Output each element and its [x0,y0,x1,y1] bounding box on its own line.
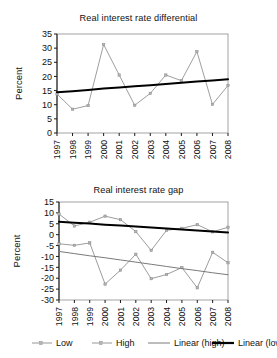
series-marker [196,50,198,52]
series-marker [165,74,167,76]
series-marker [135,230,137,232]
x-tick-label: 2004 [162,307,172,326]
y-tick-label: 35 [42,29,52,39]
x-tick-label: 1999 [83,140,93,159]
series-marker [211,103,213,105]
y-tick-label: -5 [46,241,54,251]
series-marker [227,262,229,264]
y-tick-label: 30 [42,43,52,53]
y-tick-label: 25 [42,57,52,67]
series-marker [134,104,136,106]
x-tick-label: 2003 [146,307,156,326]
y-axis-title: Percent [11,234,22,267]
x-tick-label: 2008 [223,307,233,326]
x-tick-label: 1998 [68,140,78,159]
series-line-low [59,243,228,288]
x-tick-label: 2005 [177,307,187,326]
y-tick-label: 0 [49,230,54,240]
x-tick-label: 2006 [193,307,203,326]
series-marker [150,249,152,251]
series-marker [73,244,75,246]
series-marker [104,283,106,285]
figure-two-line-charts: Real interest rate differential 05101520… [0,0,277,358]
series-marker [73,225,75,227]
x-tick-label: 2001 [114,140,124,159]
x-tick-label: 2002 [131,307,141,326]
legend-item[interactable]: High [92,338,135,348]
legend-swatch-marker [100,342,103,345]
x-tick-label: 1999 [85,307,95,326]
series-marker [149,92,151,94]
series-marker [211,251,213,253]
series-marker [119,269,121,271]
y-tick-label: -30 [41,295,54,305]
x-tick-label: 2002 [130,140,140,159]
series-marker [58,213,60,215]
series-marker [89,242,91,244]
x-tick-label: 2004 [161,140,171,159]
y-tick-label: 0 [47,128,52,138]
legend-label: High [116,338,135,348]
legend-item[interactable]: Low [32,338,73,348]
y-tick-label: 15 [44,197,54,207]
series-marker [87,104,89,106]
y-tick-label: -10 [41,252,54,262]
legend-svg: LowHighLinear (high)Linear (low) [0,332,277,354]
y-tick-label: 5 [49,219,54,229]
x-tick-label: 2008 [223,140,233,159]
chart-legend: LowHighLinear (high)Linear (low) [0,332,277,354]
series-marker [71,108,73,110]
y-tick-label: -15 [41,263,54,273]
series-marker [104,215,106,217]
series-marker [196,223,198,225]
y-tick-label: 5 [47,114,52,124]
legend-label: Low [56,338,73,348]
x-tick-label: 2007 [208,140,218,159]
x-tick-label: 2003 [146,140,156,159]
y-axis-title: Percent [13,67,24,100]
chart-svg-top: 0510152025303519971998199920002001200220… [0,0,277,182]
x-tick-label: 2007 [208,307,218,326]
chart-svg-bottom: -30-25-20-15-10-505101519971998199920002… [0,182,277,330]
series-marker [180,79,182,81]
series-line-linear-trend [57,79,228,92]
series-marker [227,84,229,86]
y-tick-label: -20 [41,273,54,283]
y-tick-label: 10 [42,100,52,110]
series-marker [227,226,229,228]
x-tick-label: 2006 [192,140,202,159]
chart-panel-bottom: Real interest rate gap -30-25-20-15-10-5… [0,182,277,330]
series-marker [135,253,137,255]
y-tick-label: 10 [44,208,54,218]
x-tick-label: 2000 [100,307,110,326]
y-tick-label: 15 [42,86,52,96]
series-line-differential [57,44,228,109]
x-tick-label: 1998 [70,307,80,326]
y-tick-label: 20 [42,72,52,82]
legend-swatch-marker [40,342,43,345]
x-tick-label: 1997 [52,140,62,159]
x-tick-label: 2001 [116,307,126,326]
series-line-high [59,214,228,250]
series-marker [118,74,120,76]
series-marker [150,277,152,279]
series-marker [165,273,167,275]
chart-panel-top: Real interest rate differential 05101520… [0,0,277,182]
series-marker [58,243,60,245]
x-tick-label: 1997 [54,307,64,326]
plot-frame [57,34,228,133]
x-tick-label: 2005 [177,140,187,159]
y-tick-label: -25 [41,284,54,294]
series-marker [119,218,121,220]
plot-frame [59,202,228,300]
series-marker [196,287,198,289]
series-marker [102,43,104,45]
legend-label: Linear (low) [238,338,277,348]
x-tick-label: 2000 [99,140,109,159]
series-line-linear-high [59,251,228,274]
